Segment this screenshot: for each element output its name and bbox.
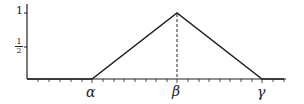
y-label-half-denominator: 2	[16, 46, 21, 55]
x-label-gamma: γ	[257, 84, 265, 100]
x-label-alpha: α	[86, 84, 95, 100]
y-label-one: 1	[16, 4, 23, 17]
membership-curve	[27, 13, 284, 79]
y-label-half: 1 2	[14, 38, 24, 55]
y-label-half-numerator: 1	[16, 37, 21, 46]
x-label-beta: β	[172, 83, 180, 99]
